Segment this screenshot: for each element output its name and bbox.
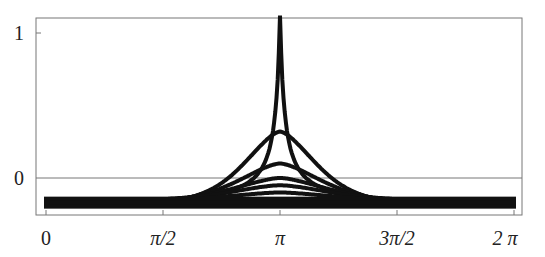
- plot: 1 0 0 π/2 π 3π/2 2 π: [0, 0, 545, 257]
- series-curve-1: [46, 16, 514, 203]
- y-tick-1: 1: [14, 22, 24, 44]
- x-tick-3pi-half: 3π/2: [378, 227, 415, 249]
- y-tick-0: 0: [14, 167, 24, 189]
- x-tick-pi: π: [275, 227, 286, 249]
- x-tick-2pi: 2 π: [492, 227, 518, 249]
- x-tick-0: 0: [41, 227, 51, 249]
- x-tick-pi-half: π/2: [150, 227, 176, 249]
